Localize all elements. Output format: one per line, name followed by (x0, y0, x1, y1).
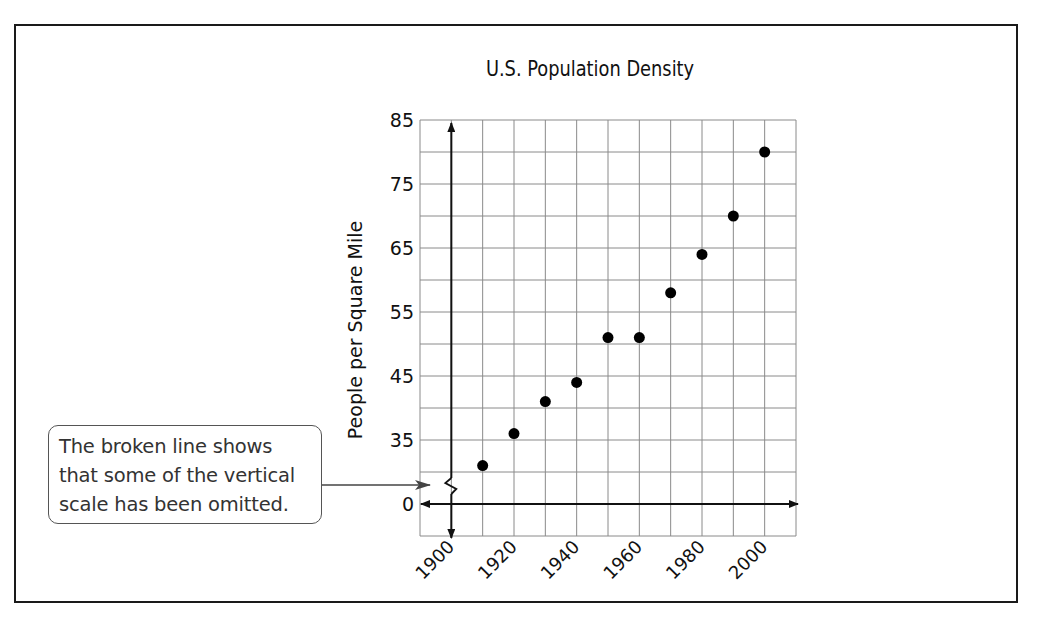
x-tick-label: 1980 (662, 536, 709, 583)
data-point (540, 396, 551, 407)
axes (421, 123, 798, 538)
y-tick-label: 65 (390, 237, 414, 259)
data-point (759, 147, 770, 158)
grid-lines (420, 120, 796, 536)
data-point (603, 332, 614, 343)
y-tick-label: 45 (390, 365, 414, 387)
x-tick-label: 1940 (536, 536, 583, 583)
data-point (571, 377, 582, 388)
y-tick-label: 55 (390, 301, 414, 323)
data-point (509, 428, 520, 439)
data-point (477, 460, 488, 471)
x-tick-label: 1920 (474, 536, 521, 583)
x-tick-labels: 190019201940196019802000 (411, 536, 772, 583)
x-tick-label: 1900 (411, 536, 458, 583)
x-tick-label: 1960 (599, 536, 646, 583)
x-tick-label: 2000 (724, 536, 771, 583)
y-tick-label: 35 (390, 429, 414, 451)
y-tick-label: 75 (390, 173, 414, 195)
data-point (665, 287, 676, 298)
data-points (477, 147, 770, 472)
scatter-plot: 0354555657585 190019201940196019802000 (0, 0, 1045, 629)
data-point (728, 211, 739, 222)
data-point (697, 249, 708, 260)
y-tick-labels: 0354555657585 (390, 109, 414, 515)
data-point (634, 332, 645, 343)
y-tick-label: 85 (390, 109, 414, 131)
y-tick-label: 0 (402, 493, 414, 515)
